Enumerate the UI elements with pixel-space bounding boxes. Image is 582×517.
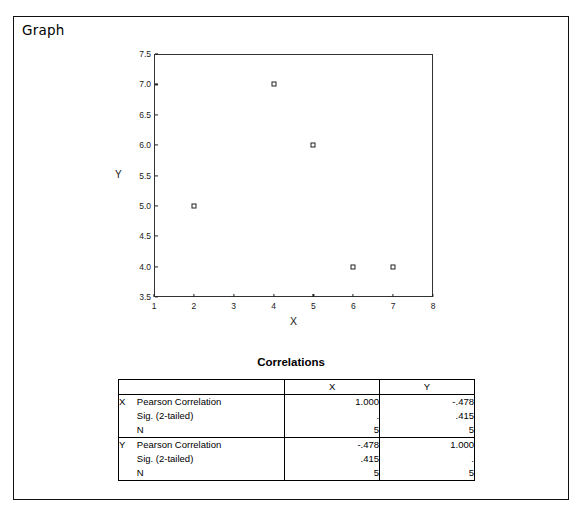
x-tick-label: 3	[231, 301, 236, 311]
x-tick-mark	[233, 294, 234, 297]
value-cell-x: .	[285, 409, 380, 423]
table-row: Sig. (2-tailed).415.	[119, 452, 475, 466]
x-tick-label: 5	[311, 301, 316, 311]
table-row: YPearson Correlation-.4781.000	[119, 438, 475, 453]
x-tick-mark	[393, 294, 394, 297]
y-tick-mark	[155, 266, 158, 267]
table-row: XPearson Correlation1.000-.478	[119, 395, 475, 410]
value-cell-y: -.478	[380, 395, 475, 410]
scatter-plot: Y X 3.54.04.55.05.56.06.57.07.512345678	[109, 37, 439, 337]
table-row: Sig. (2-tailed)..415	[119, 409, 475, 423]
value-cell-y: 1.000	[380, 438, 475, 453]
data-point	[191, 203, 196, 208]
table-row: N55	[119, 466, 475, 481]
x-tick-label: 4	[271, 301, 276, 311]
table-row: N55	[119, 423, 475, 438]
correlations-title: Correlations	[14, 356, 568, 368]
y-tick-mark	[155, 236, 158, 237]
y-tick-label: 5.5	[109, 171, 151, 181]
x-tick-label: 6	[351, 301, 356, 311]
graph-section-label: Graph	[22, 22, 64, 38]
statistic-label: N	[137, 423, 285, 438]
x-tick-mark	[432, 294, 433, 297]
y-tick-label: 3.5	[109, 292, 151, 302]
header-col-y: Y	[380, 380, 475, 395]
x-tick-mark	[273, 294, 274, 297]
value-cell-y: 5	[380, 466, 475, 481]
value-cell-y: 5	[380, 423, 475, 438]
y-tick-mark	[155, 145, 158, 146]
value-cell-x: .415	[285, 452, 380, 466]
row-group-variable	[119, 423, 137, 438]
x-tick-label: 7	[391, 301, 396, 311]
statistic-label: Pearson Correlation	[137, 395, 285, 410]
y-tick-mark	[155, 114, 158, 115]
x-axis-title: X	[290, 315, 297, 327]
x-tick-label: 8	[431, 301, 436, 311]
correlations-table-body: XPearson Correlation1.000-.478Sig. (2-ta…	[119, 395, 475, 481]
y-tick-mark	[155, 175, 158, 176]
plot-area	[154, 54, 433, 297]
y-tick-mark	[155, 296, 158, 297]
header-corner-var	[119, 380, 137, 395]
value-cell-x: 5	[285, 466, 380, 481]
data-point	[391, 264, 396, 269]
statistic-label: Sig. (2-tailed)	[137, 409, 285, 423]
row-group-variable: X	[119, 395, 137, 410]
y-tick-mark	[155, 84, 158, 85]
y-tick-label: 5.0	[109, 201, 151, 211]
y-tick-label: 6.5	[109, 110, 151, 120]
x-tick-mark	[313, 294, 314, 297]
y-tick-mark	[155, 53, 158, 54]
header-corner-stat	[137, 380, 285, 395]
correlations-table-container: X Y XPearson Correlation1.000-.478Sig. (…	[118, 379, 475, 481]
table-header-row: X Y	[119, 380, 475, 395]
statistic-label: Sig. (2-tailed)	[137, 452, 285, 466]
row-group-variable	[119, 409, 137, 423]
value-cell-y: .	[380, 452, 475, 466]
correlations-table: X Y XPearson Correlation1.000-.478Sig. (…	[118, 379, 475, 481]
row-group-variable	[119, 466, 137, 481]
row-group-variable	[119, 452, 137, 466]
data-point	[351, 264, 356, 269]
value-cell-x: 5	[285, 423, 380, 438]
x-tick-mark	[193, 294, 194, 297]
header-col-x: X	[285, 380, 380, 395]
statistic-label: Pearson Correlation	[137, 438, 285, 453]
y-tick-label: 4.0	[109, 262, 151, 272]
x-tick-mark	[153, 294, 154, 297]
y-tick-mark	[155, 205, 158, 206]
row-group-variable: Y	[119, 438, 137, 453]
y-tick-label: 7.0	[109, 79, 151, 89]
x-tick-label: 1	[152, 301, 157, 311]
y-tick-label: 6.0	[109, 140, 151, 150]
data-point	[311, 143, 316, 148]
correlations-table-head: X Y	[119, 380, 475, 395]
x-tick-label: 2	[191, 301, 196, 311]
statistic-label: N	[137, 466, 285, 481]
y-tick-label: 4.5	[109, 231, 151, 241]
x-tick-mark	[353, 294, 354, 297]
value-cell-x: -.478	[285, 438, 380, 453]
y-tick-label: 7.5	[109, 49, 151, 59]
spss-output-frame: Graph Y X 3.54.04.55.05.56.06.57.07.5123…	[13, 16, 569, 500]
data-point	[271, 82, 276, 87]
value-cell-x: 1.000	[285, 395, 380, 410]
value-cell-y: .415	[380, 409, 475, 423]
